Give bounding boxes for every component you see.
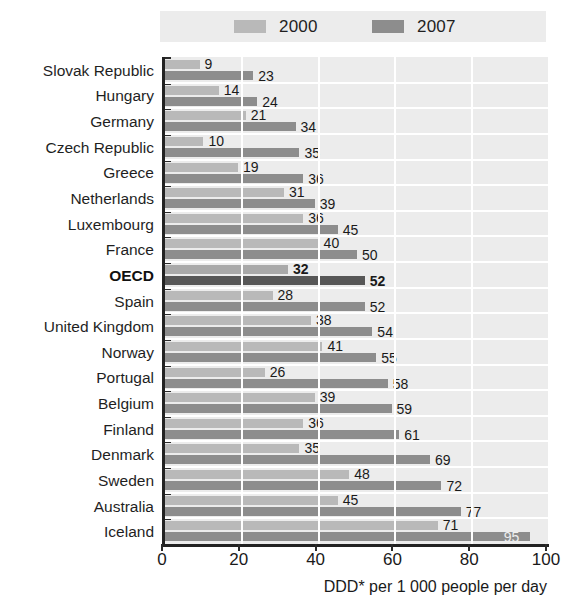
x-tick-label-20: 20	[229, 551, 248, 568]
bar-row: 3854	[165, 313, 549, 339]
bar-row: 1424	[165, 83, 549, 109]
bar-row: 923	[165, 57, 549, 83]
y-axis-label-sweden: Sweden	[0, 473, 154, 489]
bar-row: 3139	[165, 185, 549, 211]
x-tick-label-100: 100	[532, 551, 560, 568]
x-axis-title: DDD* per 1 000 people per day	[324, 578, 547, 596]
row-separator	[165, 389, 549, 391]
row-separator	[165, 210, 549, 212]
y-axis-label-czech-republic: Czech Republic	[0, 140, 154, 156]
row-separator	[165, 517, 549, 519]
bar-value-2000: 28	[278, 288, 294, 302]
bar-2000	[165, 316, 311, 325]
bar-2000	[165, 86, 219, 95]
bar-2007	[165, 302, 365, 311]
bar-2000	[165, 188, 284, 197]
row-separator	[165, 82, 549, 84]
legend-label-2007: 2007	[417, 17, 456, 37]
bar-row: 4050	[165, 236, 549, 262]
legend-item-2007[interactable]: 2007	[372, 11, 456, 42]
bar-value-2000: 31	[289, 185, 305, 199]
bar-2007	[165, 481, 441, 490]
bar-2007	[165, 404, 392, 413]
y-axis-label-norway: Norway	[0, 345, 154, 361]
bar-row: 4577	[165, 493, 549, 519]
row-separator	[165, 338, 549, 340]
bar-row: 2852	[165, 288, 549, 314]
bar-value-2000: 10	[208, 134, 224, 148]
y-axis-tick	[165, 57, 171, 59]
bar-2007	[165, 97, 257, 106]
bar-2007	[165, 225, 338, 234]
gridline-60	[394, 57, 396, 544]
legend-swatch-2000	[234, 20, 266, 33]
bar-2007	[165, 148, 299, 157]
legend-item-2000[interactable]: 2000	[234, 11, 318, 42]
bar-rows: 9231424213410351936313936454050325228523…	[165, 57, 549, 544]
bar-2000	[165, 368, 265, 377]
x-axis-tick-labels: 020406080100	[0, 551, 575, 575]
bar-2000	[165, 470, 349, 479]
y-axis-label-portugal: Portugal	[0, 370, 154, 386]
row-separator	[165, 312, 549, 314]
bar-row: 1035	[165, 134, 549, 160]
y-axis-category-labels: Slovak RepublicHungaryGermanyCzech Repub…	[0, 57, 154, 544]
x-tick-label-40: 40	[306, 551, 325, 568]
y-axis-label-netherlands: Netherlands	[0, 191, 154, 207]
row-separator	[165, 466, 549, 468]
bar-value-2000: 36	[308, 211, 324, 225]
bar-2007	[165, 276, 365, 285]
row-separator	[165, 159, 549, 161]
legend-label-2000: 2000	[279, 17, 318, 37]
y-axis-label-australia: Australia	[0, 499, 154, 515]
legend-swatch-2007	[372, 20, 404, 33]
row-separator	[165, 440, 549, 442]
bar-2007	[165, 507, 461, 516]
y-axis-label-france: France	[0, 242, 154, 258]
x-tick-label-0: 0	[157, 551, 166, 568]
plot-area: 9231424213410351936313936454050325228523…	[162, 57, 549, 547]
y-axis-label-hungary: Hungary	[0, 88, 154, 104]
bar-value-2007: 95	[504, 530, 520, 544]
bar-2000	[165, 265, 288, 274]
bar-2007	[165, 532, 530, 541]
bar-row: 3569	[165, 441, 549, 467]
y-axis-label-denmark: Denmark	[0, 447, 154, 463]
bar-2007	[165, 379, 388, 388]
x-tick-label-80: 80	[460, 551, 479, 568]
bar-row: 3645	[165, 211, 549, 237]
bar-2007	[165, 250, 357, 259]
row-separator	[165, 107, 549, 109]
bar-2007	[165, 327, 372, 336]
gridline-20	[241, 57, 243, 544]
row-separator	[165, 235, 549, 237]
bar-2007	[165, 174, 303, 183]
row-separator	[165, 184, 549, 186]
bar-value-2000: 39	[320, 390, 336, 404]
y-axis-label-spain: Spain	[0, 294, 154, 310]
row-separator	[165, 261, 549, 263]
bar-value-2000: 32	[293, 262, 309, 276]
bar-2000	[165, 60, 200, 69]
y-axis-label-germany: Germany	[0, 114, 154, 130]
bar-2000	[165, 163, 238, 172]
bar-2000	[165, 214, 303, 223]
bar-row: 4155	[165, 339, 549, 365]
row-separator	[165, 287, 549, 289]
bar-row: 2658	[165, 365, 549, 391]
bar-value-2000: 40	[324, 236, 340, 250]
bar-value-2000: 26	[270, 365, 286, 379]
bar-2000	[165, 342, 322, 351]
bar-2007	[165, 430, 399, 439]
row-separator	[165, 133, 549, 135]
y-axis-label-slovak-republic: Slovak Republic	[0, 63, 154, 79]
bar-value-2000: 41	[327, 339, 343, 353]
bar-2007	[165, 455, 430, 464]
bar-2000	[165, 111, 246, 120]
chart-legend: 2000 2007	[160, 11, 546, 42]
bar-value-2000: 19	[243, 160, 259, 174]
bar-value-2000: 71	[443, 518, 459, 532]
gridline-80	[471, 57, 473, 544]
y-axis-label-iceland: Iceland	[0, 524, 154, 540]
gridline-40	[318, 57, 320, 544]
